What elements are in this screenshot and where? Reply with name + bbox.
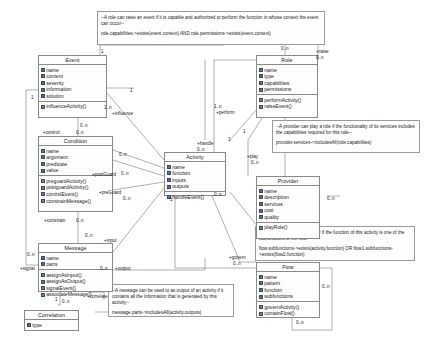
attribute-label: predicate (46, 161, 67, 168)
private-attribute-icon (259, 88, 263, 92)
private-attribute-icon (41, 74, 45, 78)
attribute-label: description (264, 194, 289, 201)
class-box-flow[interactable]: Flow name pattern function subfunctions … (256, 262, 320, 318)
private-operation-icon (41, 105, 45, 109)
multiplicity-label: 1 (243, 129, 246, 134)
operation-label: signalEvent() (46, 285, 76, 292)
private-operation-icon (259, 305, 263, 309)
private-attribute-icon (259, 288, 263, 292)
attribute-label: content (46, 73, 63, 80)
attribute-row: name (167, 164, 224, 171)
attribute-label: pattern (264, 280, 280, 287)
attribute-label: type (32, 322, 42, 329)
class-box-correlation[interactable]: Correlation type (24, 310, 79, 331)
private-operation-icon (41, 273, 45, 277)
association-role-label: +postGuard (92, 172, 116, 177)
attribute-label: name (264, 188, 277, 195)
attribute-row: solution (41, 93, 105, 100)
class-attributes-correlation: type (25, 320, 78, 330)
attribute-row: function (167, 170, 224, 177)
class-box-event[interactable]: Event name content severity information … (38, 55, 107, 118)
attribute-row: quality (259, 214, 318, 221)
class-name-message: Message (39, 244, 112, 253)
operation-row: preguardActivity() (41, 178, 111, 185)
attribute-row: name (259, 274, 318, 281)
multiplicity-label: 1..n (214, 104, 222, 109)
private-operation-icon (259, 312, 263, 316)
attribute-label: parts (46, 261, 57, 268)
note-ocl: message.parts->includesAll(activity.outp… (112, 310, 230, 316)
uml-class-diagram-canvas: --A role can raise an event if it is cap… (0, 0, 435, 347)
private-attribute-icon (259, 209, 263, 213)
private-attribute-icon (27, 323, 31, 327)
note-ocl: provider.services->includesAll(role.capa… (276, 140, 416, 146)
attribute-label: severity (46, 80, 64, 87)
association-role-label: +control (43, 130, 59, 135)
class-operations-provider: playRole() (257, 223, 319, 233)
attribute-label: services (264, 201, 283, 208)
private-attribute-icon (259, 81, 263, 85)
note-ocl: flow.subfunctions->exists(activity.funct… (259, 246, 411, 258)
note-ocl: role.capabilities->exists(event.context)… (101, 31, 321, 37)
attribute-row: cost (259, 207, 318, 214)
private-attribute-icon (167, 165, 171, 169)
multiplicity-label: 0..n (27, 252, 35, 257)
attribute-label: name (46, 148, 59, 155)
attribute-row: permissions (259, 86, 316, 93)
multiplicity-label: 0..n (281, 46, 289, 51)
note-corner-icon (415, 121, 419, 125)
note-text: --A role can raise an event if it is cap… (101, 15, 318, 26)
note-role-raise: --A role can raise an event if it is cap… (97, 11, 325, 45)
private-operation-icon (41, 192, 45, 196)
operation-label: raiseEvent() (264, 103, 291, 110)
attribute-row: predicate (41, 161, 111, 168)
private-attribute-icon (41, 94, 45, 98)
attribute-label: capabilities (264, 80, 289, 87)
attribute-label: function (264, 287, 282, 294)
private-attribute-icon (41, 149, 45, 153)
operation-row: raiseEvent() (259, 103, 316, 110)
association-role-label: +signal (20, 266, 35, 271)
class-attributes-event: name content severity information soluti… (39, 65, 106, 102)
private-operation-icon (41, 179, 45, 183)
private-operation-icon (41, 199, 45, 203)
operation-label: assignAsInput() (46, 272, 81, 279)
operation-row: governActivity() (259, 304, 318, 311)
attribute-label: name (264, 67, 277, 74)
multiplicity-label: 1 (31, 95, 34, 100)
association-role-label: +play (247, 154, 258, 159)
operation-row: assignAsOutput() (41, 278, 111, 285)
multiplicity-label: 0..n (85, 233, 93, 238)
private-attribute-icon (41, 68, 45, 72)
attribute-row: type (259, 73, 316, 80)
private-attribute-icon (259, 68, 263, 72)
operation-label: controlEvent() (46, 191, 78, 198)
attribute-row: name (41, 255, 111, 262)
attribute-row: name (259, 188, 318, 195)
multiplicity-label: 0..n (214, 192, 222, 197)
association-role-label: +constrain (44, 218, 65, 223)
class-box-provider[interactable]: Provider name description services cost … (256, 176, 320, 239)
class-name-activity: Activity (165, 153, 225, 162)
private-attribute-icon (41, 88, 45, 92)
attribute-label: name (172, 164, 185, 171)
class-box-role[interactable]: Role name type capabilities permissions … (256, 55, 318, 118)
attribute-row: name (41, 148, 111, 155)
operation-label: performActivity() (264, 97, 301, 104)
class-box-activity[interactable]: Activity name function inputs outputs ha… (164, 152, 226, 196)
private-operation-icon (259, 105, 263, 109)
private-attribute-icon (167, 171, 171, 175)
class-name-provider: Provider (257, 177, 319, 186)
class-attributes-role: name type capabilities permissions (257, 65, 317, 95)
operation-row: constrainMessage() (41, 198, 111, 205)
operation-label: postguardActivity() (46, 184, 88, 191)
private-operation-icon (259, 226, 263, 230)
association-role-label: +influence (112, 111, 133, 116)
private-operation-icon (259, 98, 263, 102)
private-attribute-icon (259, 215, 263, 219)
note-corner-icon (410, 227, 414, 231)
attribute-row: name (259, 67, 316, 74)
private-attribute-icon (41, 256, 45, 260)
multiplicity-label: 0..n (322, 284, 330, 289)
multiplicity-label: 0..n (296, 320, 304, 325)
